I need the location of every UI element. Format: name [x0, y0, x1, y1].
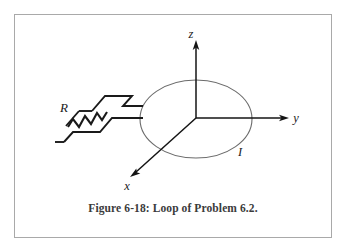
figure-page: z y x I R Figure 6-18: Loop of Problem 6… — [0, 0, 345, 252]
upper-lead-wire — [92, 96, 143, 111]
x-axis — [130, 118, 196, 177]
resistor-zigzag — [68, 112, 107, 127]
y-axis — [196, 115, 289, 122]
y-axis-label: y — [291, 111, 299, 125]
figure-caption: Figure 6-18: Loop of Problem 6.2. — [14, 202, 332, 214]
x-axis-line — [136, 118, 196, 172]
z-axis-label: z — [188, 27, 194, 41]
z-axis — [193, 40, 200, 118]
resistor-label: R — [59, 100, 68, 115]
figure-illustration: z y x I R — [0, 0, 345, 252]
x-axis-label: x — [123, 179, 130, 193]
current-label: I — [237, 145, 243, 159]
